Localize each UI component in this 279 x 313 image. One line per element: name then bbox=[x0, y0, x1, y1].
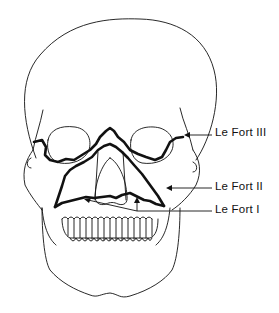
le-fort-2-line bbox=[55, 144, 164, 207]
left-orbit bbox=[48, 127, 90, 164]
mandible-outline bbox=[42, 208, 180, 297]
arrow-head bbox=[84, 198, 91, 203]
label-le-fort-2: Le Fort II bbox=[215, 180, 263, 192]
teeth bbox=[62, 217, 158, 241]
label-le-fort-3: Le Fort III bbox=[215, 126, 266, 138]
arrow-head bbox=[184, 132, 190, 138]
skull-diagram bbox=[0, 0, 279, 313]
label-le-fort-1: Le Fort I bbox=[215, 203, 260, 215]
arrow-head bbox=[166, 185, 172, 191]
